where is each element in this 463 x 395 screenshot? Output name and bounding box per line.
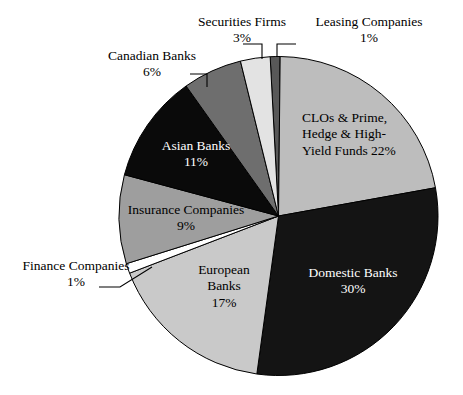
slice-label-european-banks: European Banks 17% (186, 262, 262, 311)
slice-label-european-line2: Banks (186, 278, 262, 294)
callout-canadian-banks-label: Canadian Banks (92, 48, 212, 64)
slice-label-european-line3: 17% (186, 295, 262, 311)
callout-leasing-companies-label: Leasing Companies (300, 14, 438, 30)
slice-label-clos-line3: Yield Funds 22% (302, 143, 414, 159)
slice-label-insurance-companies: Insurance Companies 9% (121, 202, 251, 235)
slice-label-clos-line1: CLOs & Prime, (302, 110, 414, 126)
slice-label-clos-prime-hedge-high-yield-funds: CLOs & Prime, Hedge & High- Yield Funds … (302, 110, 414, 159)
callout-finance-companies-label: Finance Companies (6, 258, 146, 274)
pie-chart-svg (0, 0, 463, 395)
slice-label-domestic-line2: 30% (294, 281, 412, 297)
slice-label-asian-banks: Asian Banks 11% (148, 138, 244, 171)
callout-canadian-banks-value: 6% (92, 64, 212, 80)
slice-label-asian-line2: 11% (148, 154, 244, 170)
callout-securities-firms: Securities Firms 3% (186, 14, 298, 46)
pie-chart: Securities Firms 3% Leasing Companies 1%… (0, 0, 463, 395)
slice-label-insurance-line1: Insurance Companies (121, 202, 251, 218)
callout-securities-firms-label: Securities Firms (186, 14, 298, 30)
leader-line-leasing-companies (277, 44, 296, 57)
callout-canadian-banks: Canadian Banks 6% (92, 48, 212, 80)
callout-finance-companies: Finance Companies 1% (6, 258, 146, 290)
slice-label-asian-line1: Asian Banks (148, 138, 244, 154)
slice-label-domestic-banks: Domestic Banks 30% (294, 265, 412, 298)
callout-finance-companies-value: 1% (6, 274, 146, 290)
callout-leasing-companies-value: 1% (300, 30, 438, 46)
leader-line-securities-firms (243, 44, 262, 59)
slice-label-clos-line2: Hedge & High- (302, 126, 414, 142)
slice-label-insurance-line2: 9% (121, 218, 251, 234)
callout-leasing-companies: Leasing Companies 1% (300, 14, 438, 46)
slice-label-domestic-line1: Domestic Banks (294, 265, 412, 281)
callout-securities-firms-value: 3% (186, 30, 298, 46)
slice-label-european-line1: European (186, 262, 262, 278)
